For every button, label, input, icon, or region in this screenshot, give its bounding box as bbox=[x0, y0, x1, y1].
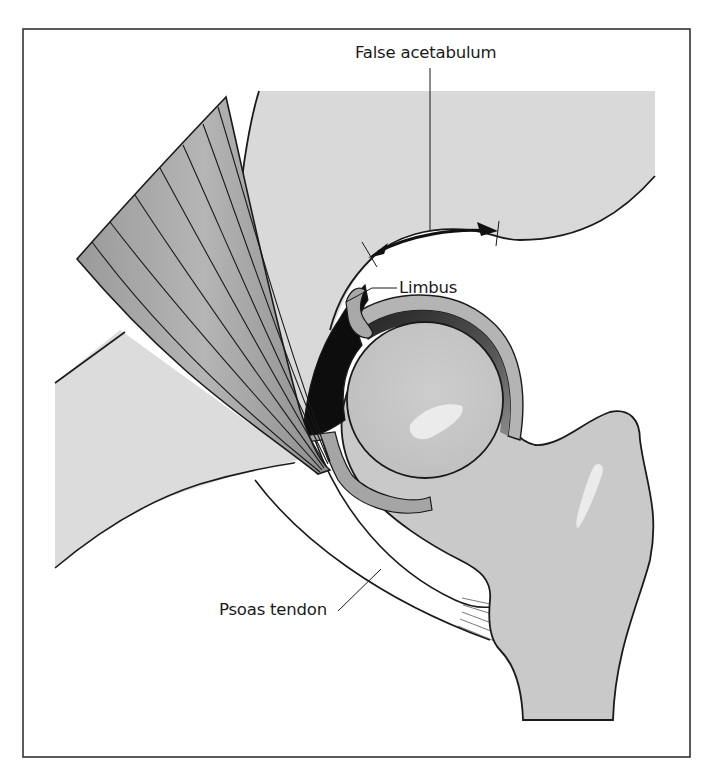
label-psoas-tendon: Psoas tendon bbox=[219, 600, 327, 619]
label-limbus: Limbus bbox=[399, 278, 457, 297]
femoral-head bbox=[347, 322, 503, 478]
hip-anatomy-diagram bbox=[0, 0, 712, 781]
label-false-acetabulum: False acetabulum bbox=[355, 43, 496, 62]
